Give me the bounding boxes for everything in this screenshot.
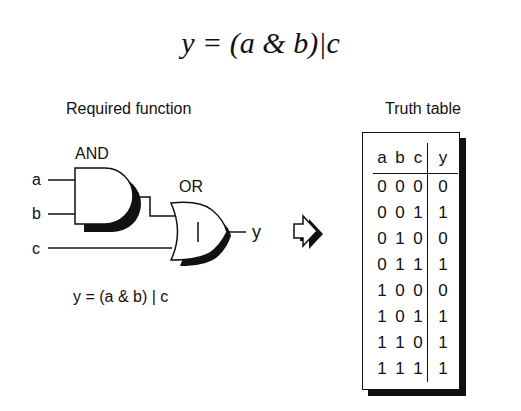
table-row: 1011 <box>373 304 458 330</box>
cell: 0 <box>391 174 409 201</box>
truth-table-header: a b c y <box>373 143 458 174</box>
cell: 1 <box>409 200 428 226</box>
cell: 1 <box>428 252 459 278</box>
table-row: 1111 <box>373 356 458 382</box>
and-gate <box>75 168 141 232</box>
cell: 0 <box>409 174 428 201</box>
header-c: c <box>409 143 428 174</box>
cell: 0 <box>391 304 409 330</box>
cell: 1 <box>373 278 391 304</box>
cell: 0 <box>373 252 391 278</box>
cell: 0 <box>373 226 391 252</box>
right-arrow-icon <box>294 216 323 249</box>
header-y: y <box>428 143 459 174</box>
cell: 0 <box>391 200 409 226</box>
cell: 1 <box>428 330 459 356</box>
cell: 1 <box>373 330 391 356</box>
cell: 1 <box>391 330 409 356</box>
cell: 0 <box>428 226 459 252</box>
cell: 0 <box>428 174 459 201</box>
header-b: b <box>391 143 409 174</box>
cell: 1 <box>409 356 428 382</box>
table-row: 1101 <box>373 330 458 356</box>
cell: 1 <box>428 304 459 330</box>
cell: 0 <box>391 278 409 304</box>
cell: 1 <box>409 252 428 278</box>
truth-table-title: Truth table <box>385 100 461 118</box>
cell: 0 <box>409 226 428 252</box>
or-gate <box>171 202 231 266</box>
cell: 1 <box>409 304 428 330</box>
cell: 1 <box>428 200 459 226</box>
table-row: 1000 <box>373 278 458 304</box>
truth-table: a b c y 0000 0011 0100 0111 1000 1011 11… <box>362 132 460 390</box>
table-row: 0100 <box>373 226 458 252</box>
cell: 1 <box>428 356 459 382</box>
cell: 0 <box>373 200 391 226</box>
cell: 0 <box>409 278 428 304</box>
cell: 1 <box>373 356 391 382</box>
cell: 0 <box>428 278 459 304</box>
cell: 1 <box>391 226 409 252</box>
cell: 1 <box>391 356 409 382</box>
table-row: 0000 <box>373 174 458 201</box>
header-a: a <box>373 143 391 174</box>
table-row: 0011 <box>373 200 458 226</box>
table-row: 0111 <box>373 252 458 278</box>
cell: 0 <box>373 174 391 201</box>
cell: 1 <box>373 304 391 330</box>
cell: 1 <box>391 252 409 278</box>
cell: 0 <box>409 330 428 356</box>
